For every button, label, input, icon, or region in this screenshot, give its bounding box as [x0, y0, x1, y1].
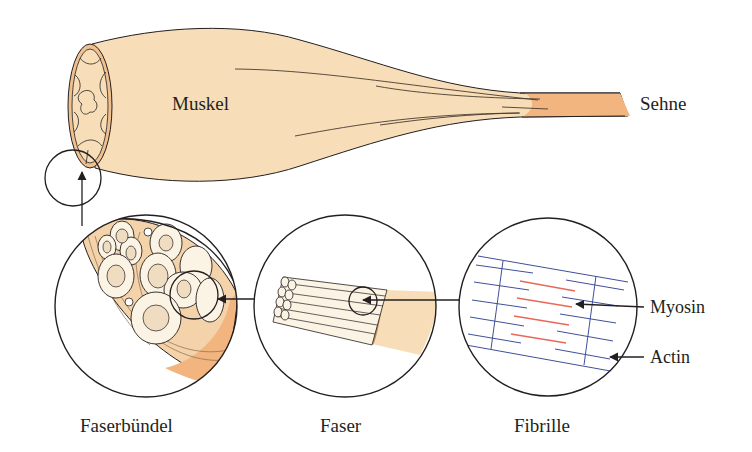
fibril-detail: Fibrille — [459, 218, 637, 436]
fiber-bundle-detail: Faserbündel — [55, 215, 240, 436]
tendon-label: Sehne — [640, 93, 686, 114]
fiber-label: Faser — [320, 415, 362, 436]
fibril-label: Fibrille — [514, 415, 570, 436]
muscle-structure-diagram: Muskel Sehne — [0, 0, 752, 452]
myosin-label: Myosin — [650, 297, 705, 317]
muscle-zoom-marker — [45, 150, 101, 206]
actin-label: Actin — [650, 347, 690, 367]
muscle-label: Muskel — [172, 93, 229, 114]
muscle: Muskel Sehne — [68, 28, 686, 181]
tendon — [522, 93, 630, 117]
fiber-bundle-label: Faserbündel — [80, 415, 173, 436]
fiber-detail: Faser — [254, 215, 440, 436]
